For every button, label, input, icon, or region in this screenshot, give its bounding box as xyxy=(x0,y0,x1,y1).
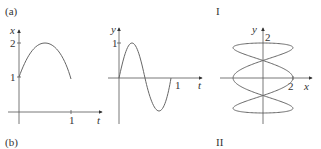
ytick-2: 2 xyxy=(10,37,16,49)
xlabel: t xyxy=(198,79,202,91)
chart-y-vs-t: y 1 1 t xyxy=(108,23,202,124)
ylabel: y xyxy=(110,23,116,35)
xtick-1: 1 xyxy=(69,114,75,126)
curve xyxy=(19,43,71,79)
roman-two-label: II xyxy=(216,136,224,148)
xtick-1: 1 xyxy=(175,79,181,91)
figure: (a) (b) I II x 2 1 1 t y 1 1 t y 2 2 x xyxy=(0,0,321,149)
ylabel: y xyxy=(251,23,257,35)
ytick-1: 1 xyxy=(10,71,16,83)
curve xyxy=(119,43,171,111)
panel-b-label: (b) xyxy=(5,136,18,149)
ytick-2: 2 xyxy=(265,31,271,43)
chart-x-vs-t: x 2 1 1 t xyxy=(8,24,102,126)
ytick-1: 1 xyxy=(112,37,118,49)
xlabel: t xyxy=(97,114,101,126)
xlabel: x xyxy=(303,80,309,92)
ylabel: x xyxy=(9,24,15,36)
roman-one-label: I xyxy=(216,5,220,17)
chart-lissajous: y 2 2 x xyxy=(220,23,312,124)
panel-a-label: (a) xyxy=(5,5,18,18)
